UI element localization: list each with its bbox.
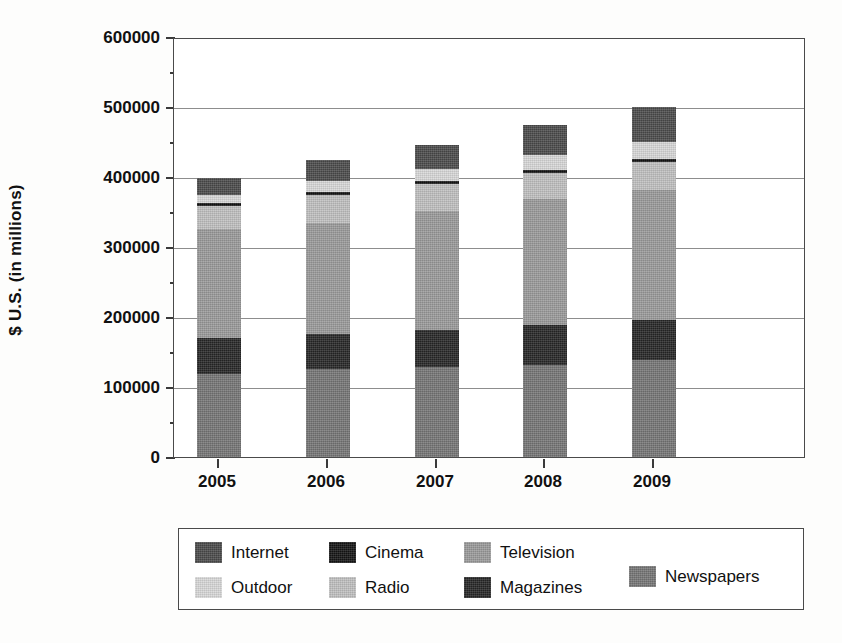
x-tick-label-2009: 2009 [607,472,697,492]
bar-segment-outdoor-2009 [632,142,676,159]
x-tick-mark [435,459,437,468]
bar-segment-radio-2005 [197,206,241,229]
bar-segment-outdoor-2006 [306,181,350,192]
legend-item-newspapers[interactable]: Newspapers [629,566,760,587]
y-tick-label: 0 [0,448,160,468]
bar-segment-television-2006 [306,223,350,334]
bar-segment-radio-2009 [632,162,676,190]
bar-segment-newspapers-2005 [197,374,241,457]
x-tick-mark [543,459,545,468]
bar-segment-newspapers-2008 [523,365,567,457]
legend-label-cinema: Cinema [365,544,424,561]
legend-item-internet[interactable]: Internet [195,542,289,563]
legend-item-magazines[interactable]: Magazines [464,577,582,598]
legend-item-television[interactable]: Television [464,542,575,563]
bar-segment-magazines-2009 [632,320,676,361]
bar-segment-internet-2008 [523,125,567,154]
y-tick-label: 100000 [0,378,160,398]
legend-swatch-newspapers-icon [629,566,656,587]
bar-segment-cinema-2005 [197,203,241,206]
legend-label-outdoor: Outdoor [231,579,292,596]
gridline [174,318,804,319]
legend-label-magazines: Magazines [500,579,582,596]
chart-legend: Internet Cinema Television Newspapers Ou… [178,528,804,610]
bar-segment-magazines-2006 [306,334,350,369]
bar-segment-internet-2009 [632,107,676,142]
legend-swatch-television-icon [464,542,491,563]
x-tick-label-2008: 2008 [498,472,588,492]
legend-swatch-outdoor-icon [195,577,222,598]
bar-segment-cinema-2008 [523,170,567,173]
bar-segment-internet-2007 [415,145,459,169]
legend-item-outdoor[interactable]: Outdoor [195,577,292,598]
bar-segment-magazines-2008 [523,325,567,364]
bar-segment-internet-2006 [306,160,350,181]
gridline [174,248,804,249]
bar-segment-radio-2007 [415,184,459,211]
bar-segment-television-2007 [415,211,459,330]
bar-segment-magazines-2007 [415,330,459,368]
x-tick-mark [217,459,219,468]
legend-swatch-radio-icon [329,577,356,598]
bar-segment-magazines-2005 [197,338,241,374]
chart-page: $ U.S. (in millions) 600000 500000 40000… [0,0,842,643]
plot-area [173,38,805,458]
bar-segment-outdoor-2005 [197,195,241,203]
x-tick-label-2007: 2007 [390,472,480,492]
legend-label-radio: Radio [365,579,409,596]
gridline [174,388,804,389]
x-tick-label-2005: 2005 [172,472,262,492]
legend-label-newspapers: Newspapers [665,568,760,585]
y-axis-title: $ U.S. (in millions) [6,150,26,370]
bar-segment-television-2008 [523,199,567,325]
legend-label-internet: Internet [231,544,289,561]
x-tick-label-2006: 2006 [281,472,371,492]
legend-label-television: Television [500,544,575,561]
legend-swatch-cinema-icon [329,542,356,563]
bar-segment-radio-2008 [523,173,567,200]
gridline [174,108,804,109]
bar-segment-cinema-2009 [632,159,676,162]
bar-segment-newspapers-2009 [632,360,676,457]
legend-swatch-internet-icon [195,542,222,563]
legend-item-cinema[interactable]: Cinema [329,542,424,563]
y-tick-label: 600000 [0,28,160,48]
bar-segment-internet-2005 [197,178,241,195]
bar-segment-television-2009 [632,190,676,320]
legend-item-radio[interactable]: Radio [329,577,409,598]
bar-segment-newspapers-2007 [415,367,459,457]
bar-segment-cinema-2007 [415,181,459,184]
bar-segment-television-2005 [197,229,241,338]
bar-segment-outdoor-2007 [415,169,459,182]
x-tick-mark [326,459,328,468]
gridline [174,178,804,179]
y-tick-label: 500000 [0,98,160,118]
x-tick-mark [652,459,654,468]
bar-segment-newspapers-2006 [306,369,350,457]
legend-swatch-magazines-icon [464,577,491,598]
bar-segment-radio-2006 [306,195,350,223]
bar-segment-cinema-2006 [306,192,350,195]
bar-segment-outdoor-2008 [523,155,567,170]
